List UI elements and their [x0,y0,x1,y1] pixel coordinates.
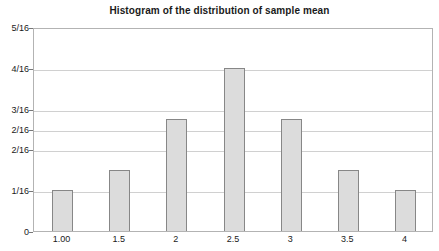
y-axis-tick [29,232,33,233]
y-axis-tick-label: 0 [0,228,29,237]
x-axis-tick-label: 3.5 [341,235,354,244]
histogram-bar [109,170,130,231]
x-axis-tick-label: 3 [288,235,293,244]
x-axis-tick-label: 1.5 [112,235,125,244]
x-axis-tick-label: 2.5 [227,235,240,244]
y-axis-tick-label: 1/16 [0,187,29,196]
histogram-chart: Histogram of the distribution of sample … [0,0,439,251]
y-axis-tick-label: 2/16 [0,126,29,135]
x-axis-tick-label: 2 [173,235,178,244]
x-axis-tick-label: 4 [402,235,407,244]
x-axis-tick-label: 1.00 [53,235,71,244]
histogram-bar [281,119,302,231]
bars-group [34,29,432,231]
histogram-bar [224,68,245,231]
y-axis-tick-label: 4/16 [0,64,29,73]
y-axis: 01/162/162/163/164/165/16 [0,0,29,251]
histogram-bar [395,190,416,231]
histogram-bar [166,119,187,231]
x-axis: 1.001.522.533.54 [33,235,433,251]
histogram-bar [338,170,359,231]
histogram-bar [52,190,73,231]
y-axis-tick-label: 5/16 [0,24,29,33]
plot-area [33,28,433,232]
y-axis-tick-label: 2/16 [0,146,29,155]
chart-title: Histogram of the distribution of sample … [0,5,439,16]
y-axis-tick-label: 3/16 [0,105,29,114]
